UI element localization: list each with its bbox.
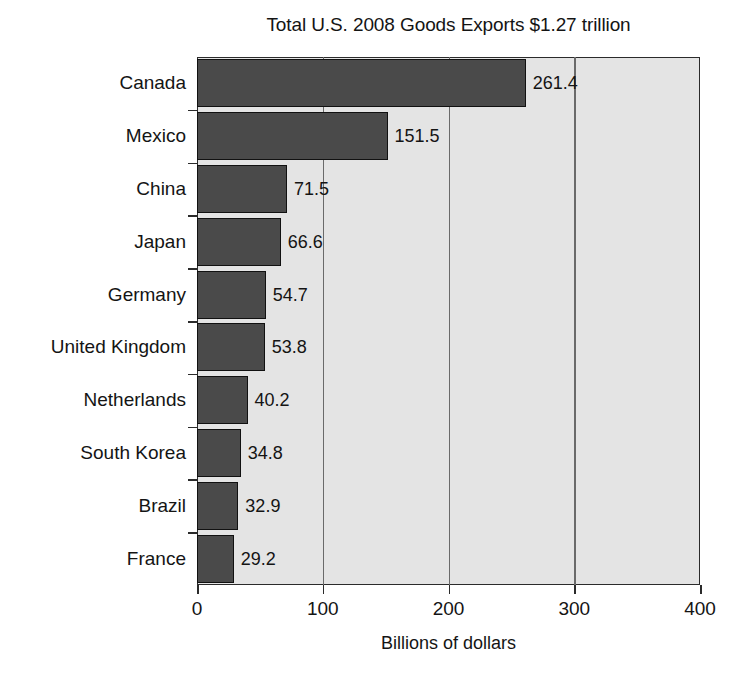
category-label: South Korea [12,442,197,464]
bar[interactable] [197,535,234,583]
category-label: Brazil [12,495,197,517]
x-axis-tick-label: 100 [307,597,339,621]
x-axis-tick [197,585,199,594]
bar-value-label: 32.9 [238,496,280,516]
bar-value-label: 40.2 [248,390,290,410]
y-axis-tick [188,268,197,270]
y-axis-tick [188,321,197,323]
x-axis-tick [574,585,576,594]
category-label: Mexico [12,125,197,147]
bar-value-label: 66.6 [281,232,323,252]
category-label: France [12,548,197,570]
bar-row: 53.8 [197,323,700,371]
x-axis-tick-label: 200 [433,597,465,621]
bar-row: 29.2 [197,535,700,583]
bar[interactable] [197,429,241,477]
y-axis-tick [188,110,197,112]
y-axis-tick [188,163,197,165]
x-axis-title: Billions of dollars [197,632,700,654]
y-axis-tick [188,427,197,429]
bar-value-label: 29.2 [234,549,276,569]
y-axis-tick [188,374,197,376]
bar-row: 66.6 [197,218,700,266]
y-axis-tick [188,532,197,534]
bar[interactable] [197,218,281,266]
bar-value-label: 34.8 [241,443,283,463]
bar[interactable] [197,323,265,371]
bar-row: 40.2 [197,376,700,424]
bar[interactable] [197,59,526,107]
y-axis-tick [188,479,197,481]
category-label: Netherlands [12,389,197,411]
bar-row: 71.5 [197,165,700,213]
bar[interactable] [197,376,248,424]
category-label: Germany [12,284,197,306]
y-axis-tick [188,215,197,217]
bar-row: 261.4 [197,59,700,107]
x-axis-tick [449,585,451,594]
bar-row: 34.8 [197,429,700,477]
bar-value-label: 53.8 [265,337,307,357]
category-label: Japan [12,231,197,253]
chart-title: Total U.S. 2008 Goods Exports $1.27 tril… [197,13,700,37]
bar[interactable] [197,112,388,160]
bar-value-label: 261.4 [526,73,578,93]
bar-value-label: 71.5 [287,179,329,199]
bar-row: 54.7 [197,271,700,319]
bar[interactable] [197,165,287,213]
x-axis-tick-label: 300 [558,597,590,621]
bar[interactable] [197,482,238,530]
x-axis-tick [323,585,325,594]
category-label: Canada [12,72,197,94]
x-axis-tick-label: 400 [684,597,716,621]
x-axis-tick [700,585,702,594]
category-label: United Kingdom [12,336,197,358]
bar-row: 32.9 [197,482,700,530]
bar-chart: Total U.S. 2008 Goods Exports $1.27 tril… [0,0,749,683]
bar-value-label: 151.5 [388,126,440,146]
bar-row: 151.5 [197,112,700,160]
category-label: China [12,178,197,200]
bar-value-label: 54.7 [266,285,308,305]
bar[interactable] [197,271,266,319]
x-axis-tick-label: 0 [192,597,203,621]
